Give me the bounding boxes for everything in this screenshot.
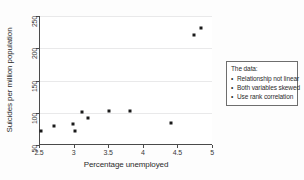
data-point: [52, 124, 55, 127]
y-axis-tick-label: 200: [31, 48, 38, 59]
data-point: [192, 33, 195, 36]
annotation-item: Relationship not linear: [231, 74, 293, 83]
x-axis-tick-label: 3: [72, 149, 76, 156]
annotation-box: The data: Relationship not linear Both v…: [226, 61, 298, 106]
annotation-title: The data:: [231, 65, 293, 72]
y-axis-tick-label: 250: [31, 16, 38, 27]
gridline: [40, 113, 212, 114]
x-axis-tick: [212, 145, 213, 148]
x-axis-tick: [177, 145, 178, 148]
x-axis-tick-label: 4: [141, 149, 145, 156]
annotation-item: Both variables skewed: [231, 83, 293, 92]
x-axis-tick-label: 3.5: [104, 149, 113, 156]
y-axis-label: Suicides per million population: [5, 28, 14, 133]
x-axis-tick-label: 4.5: [173, 149, 182, 156]
x-axis-tick: [74, 145, 75, 148]
x-axis-tick: [108, 145, 109, 148]
data-point: [128, 109, 131, 112]
x-axis-tick: [39, 145, 40, 148]
gridline: [40, 16, 212, 17]
data-point: [108, 109, 111, 112]
data-point: [80, 111, 83, 114]
scatter-plot-figure: Suicides per million population Percenta…: [0, 0, 304, 180]
data-point: [73, 129, 76, 132]
plot-area: [39, 16, 212, 145]
y-axis-tick-label: 150: [31, 81, 38, 92]
x-axis-tick-label: 2.5: [34, 149, 43, 156]
annotation-item: Use rank correlation: [231, 92, 293, 101]
x-axis-label: Percentage unemployed: [84, 160, 169, 169]
y-axis-tick-label: 100: [31, 113, 38, 124]
data-point: [87, 116, 90, 119]
x-axis-tick: [143, 145, 144, 148]
data-point: [170, 122, 173, 125]
x-axis-tick-label: 5: [210, 149, 214, 156]
data-point: [72, 123, 75, 126]
data-point: [199, 26, 202, 29]
gridline: [40, 48, 212, 49]
data-point: [40, 130, 43, 133]
gridline: [40, 81, 212, 82]
